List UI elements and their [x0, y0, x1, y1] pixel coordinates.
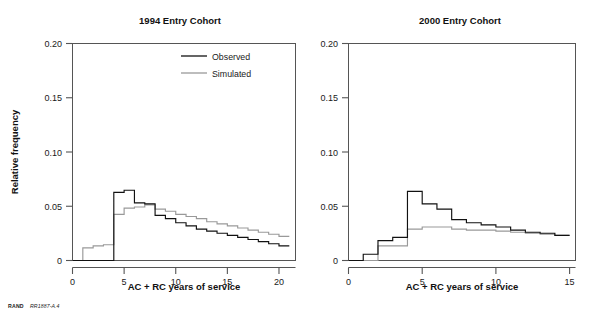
- panel-right-ytick-label-0: 0: [333, 256, 338, 266]
- xtick-label: 20: [274, 277, 284, 287]
- panel-right-ytick-label-0.05: 0.05: [320, 202, 338, 212]
- figure-root: 1994 Entry Cohort 0.20 0.15 0.10 0.05 0 …: [0, 0, 591, 317]
- panel-left-y-axis-title: Relative frequency: [9, 109, 20, 194]
- panel-right-ytick-label-0.15: 0.15: [320, 93, 338, 103]
- panel-left-title: 1994 Entry Cohort: [139, 15, 222, 26]
- panel-left-ytick-label-0.15: 0.15: [44, 93, 62, 103]
- panel-right-title: 2000 Entry Cohort: [419, 15, 502, 26]
- xtick-label: 0: [70, 277, 75, 287]
- credit-report-id: RR1887-A.4: [30, 303, 60, 309]
- panel-right-ytick-label-0.20: 0.20: [320, 39, 338, 49]
- panel-left-ytick-label-0: 0: [57, 256, 62, 266]
- figure-credit: RAND RR1887-A.4: [8, 303, 60, 309]
- legend-label-simulated: Simulated: [212, 69, 251, 79]
- xtick-label: 0: [346, 277, 351, 287]
- credit-organization: RAND: [8, 303, 24, 309]
- xtick-label: 5: [122, 277, 127, 287]
- panel-left-x-axis-title: AC + RC years of service: [128, 281, 241, 292]
- panel-left-ytick-label-0.10: 0.10: [44, 148, 62, 158]
- xtick-label: 15: [565, 277, 575, 287]
- panel-left-ytick-label-0.20: 0.20: [44, 39, 62, 49]
- legend-label-observed: Observed: [212, 52, 250, 62]
- panel-left-ytick-label-0.05: 0.05: [44, 202, 62, 212]
- panel-right-x-axis-title: AC + RC years of service: [406, 281, 519, 292]
- panel-right-ytick-label-0.10: 0.10: [320, 148, 338, 158]
